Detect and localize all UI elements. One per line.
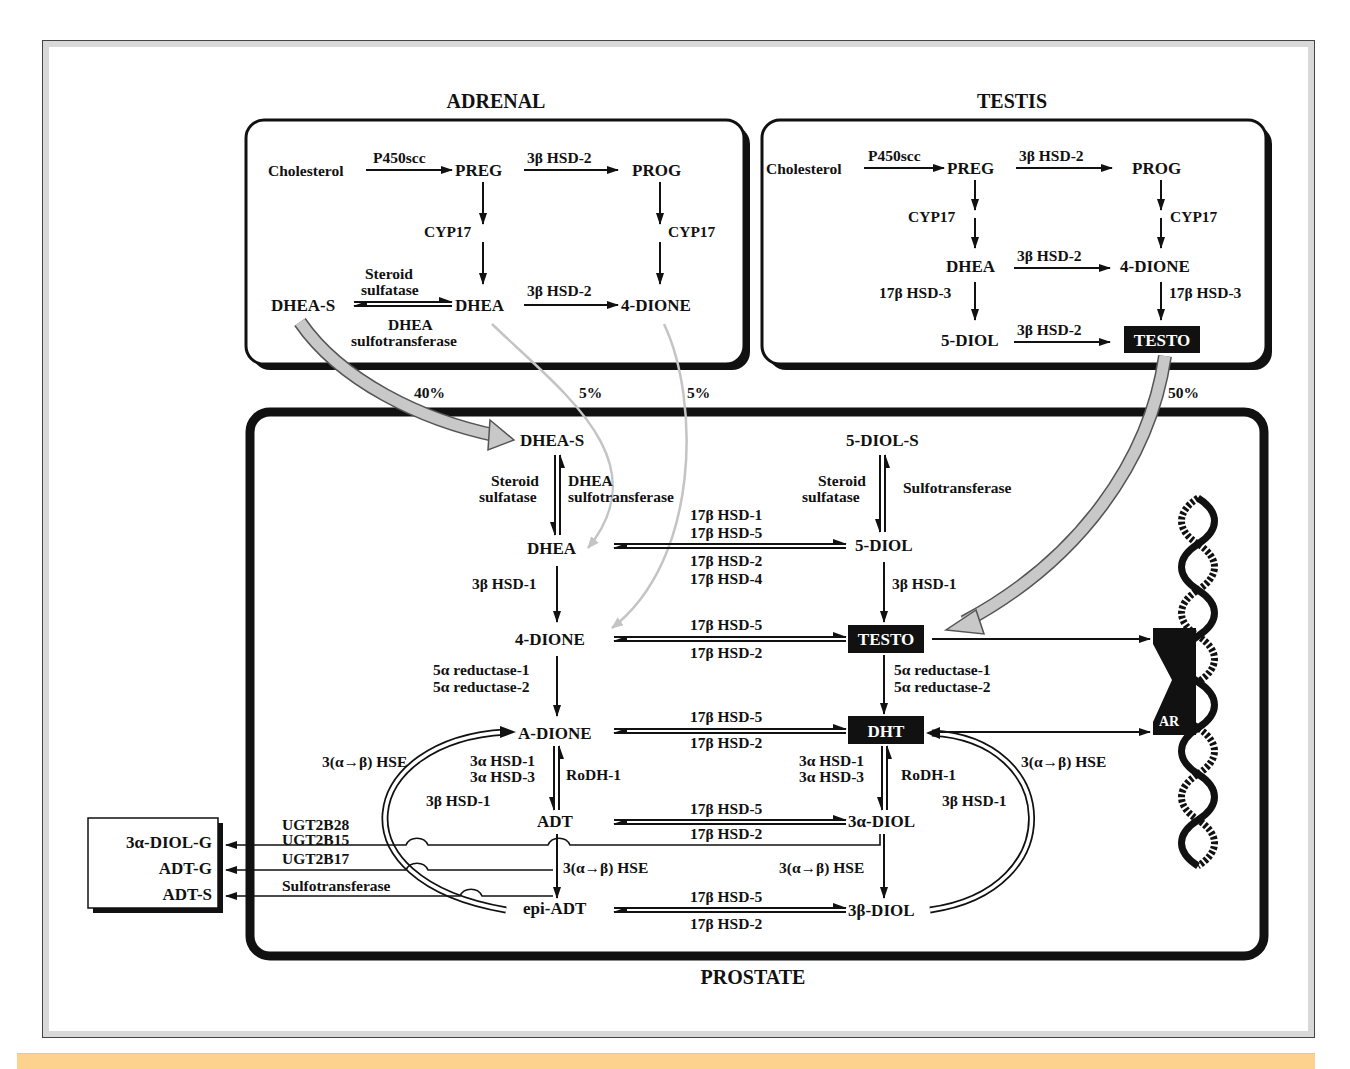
prostate-sulfatase-2: sulfatase (802, 488, 860, 505)
prostate-sulfotransferase: Sulfotransferase (903, 479, 1012, 496)
adrenal-cyp17-left: CYP17 (424, 223, 472, 240)
prostate-3bhsd1-right: 3β HSD-1 (892, 575, 957, 592)
adrenal-3bhsd2-top: 3β HSD-2 (527, 149, 592, 166)
adrenal-cholesterol: Cholesterol (268, 162, 344, 179)
testis-3bhsd2-bottom: 3β HSD-2 (1017, 321, 1082, 338)
prostate-steroid-1: Steroid (491, 472, 539, 489)
testis-4dione: 4-DIONE (1120, 257, 1190, 276)
prostate-dhea-sulfo-2: sulfotransferase (568, 488, 674, 505)
prostate-17bhsd5-fwd: 17β HSD-5 (690, 524, 763, 541)
prostate-3bhsd1-loop-left: 3β HSD-1 (426, 792, 491, 809)
adrenal-dhea: DHEA (455, 296, 505, 315)
adrenal-prog: PROG (632, 161, 681, 180)
prostate-epi-17bhsd2: 17β HSD-2 (690, 915, 763, 932)
prostate-3ahsd1-left: 3α HSD-1 (470, 752, 535, 769)
prostate-epi-17bhsd5: 17β HSD-5 (690, 888, 763, 905)
adrenal-4dione: 4-DIONE (621, 296, 691, 315)
excretion-adt-g: ADT-G (159, 859, 212, 878)
prostate-dhea-sulfo-1: DHEA (568, 472, 614, 489)
prostate-testo: TESTO (858, 630, 914, 649)
dione-contribution: 5% (687, 384, 710, 401)
prostate-dhea: DHEA (527, 539, 577, 558)
dheas-contribution: 40% (414, 384, 445, 401)
testis-prog: PROG (1132, 159, 1181, 178)
testis-cyp17-right: CYP17 (1170, 208, 1218, 225)
prostate-17bhsd1-fwd: 17β HSD-1 (690, 506, 762, 523)
prostate-sulfotransferase-out: Sulfotransferase (282, 877, 391, 894)
prostate-hse-mid-left: 3(α→β) HSE (563, 859, 648, 877)
prostate-5diol: 5-DIOL (855, 536, 913, 555)
testis-3bhsd2-top: 3β HSD-2 (1019, 147, 1084, 164)
adrenal-p450scc: P450scc (373, 149, 426, 166)
prostate-17bhsd2-rev: 17β HSD-2 (690, 552, 763, 569)
prostate-4dione: 4-DIONE (515, 630, 585, 649)
prostate-3ahsd1-right: 3α HSD-1 (799, 752, 864, 769)
testis-cyp17-left: CYP17 (908, 208, 956, 225)
testis-p450scc: P450scc (868, 147, 921, 164)
testis-5diol: 5-DIOL (941, 331, 999, 350)
prostate-3bhsd1-loop-right: 3β HSD-1 (942, 792, 1007, 809)
prostate-pathway: DHEA-S Steroid sulfatase DHEA sulfotrans… (226, 431, 1150, 932)
testis-testo: TESTO (1134, 331, 1190, 350)
adrenal-steroid: Steroid (365, 265, 413, 282)
adrenal-3bhsd2-bottom: 3β HSD-2 (527, 282, 592, 299)
adrenal-title: ADRENAL (447, 90, 546, 112)
prostate-5ared2-left: 5α reductase-2 (433, 678, 530, 695)
prostate-adt-17bhsd2: 17β HSD-2 (690, 825, 763, 842)
adrenal-box (246, 120, 750, 370)
prostate-hse-left: 3(α→β) HSE (322, 753, 407, 771)
prostate-hse-mid-right: 3(α→β) HSE (779, 859, 864, 877)
adrenal-dhea-label: DHEA (388, 316, 434, 333)
prostate-5ared1-right: 5α reductase-1 (894, 661, 991, 678)
prostate-dione-17bhsd5: 17β HSD-5 (690, 616, 763, 633)
prostate-title: PROSTATE (701, 966, 806, 988)
prostate-adt-17bhsd5: 17β HSD-5 (690, 800, 763, 817)
testis-17bhsd3-right: 17β HSD-3 (1169, 284, 1242, 301)
prostate-dheas: DHEA-S (520, 431, 584, 450)
prostate-ugt2b17: UGT2B17 (282, 850, 349, 867)
testis-preg: PREG (947, 159, 994, 178)
prostate-3bhsd1-left: 3β HSD-1 (472, 575, 537, 592)
testis-17bhsd3-left: 17β HSD-3 (879, 284, 952, 301)
adrenal-cyp17-right: CYP17 (668, 223, 716, 240)
prostate-adione: A-DIONE (518, 724, 592, 743)
prostate-5diols: 5-DIOL-S (846, 431, 919, 450)
prostate-dht: DHT (868, 722, 906, 741)
prostate-steroid-2: Steroid (818, 472, 866, 489)
prostate-ugt2b15: UGT2B15 (282, 831, 349, 848)
testis-dhea: DHEA (946, 257, 996, 276)
adrenal-sulfatase: sulfatase (361, 281, 419, 298)
adrenal-preg: PREG (455, 161, 502, 180)
prostate-3adiol: 3α-DIOL (848, 812, 915, 831)
prostate-adione-17bhsd2: 17β HSD-2 (690, 734, 763, 751)
adrenal-dheas: DHEA-S (271, 296, 335, 315)
excretion-3adiol-g: 3α-DIOL-G (126, 833, 212, 852)
prostate-3bdiol: 3β-DIOL (848, 901, 915, 920)
prostate-rodh1-right: RoDH-1 (901, 766, 956, 783)
prostate-5ared1-left: 5α reductase-1 (433, 661, 530, 678)
prostate-3ahsd3-right: 3α HSD-3 (799, 768, 864, 785)
prostate-3ahsd3-left: 3α HSD-3 (470, 768, 535, 785)
prostate-dione-17bhsd2: 17β HSD-2 (690, 644, 763, 661)
prostate-rodh1-left: RoDH-1 (566, 766, 621, 783)
dhea-contribution: 5% (579, 384, 602, 401)
testo-contribution: 50% (1168, 384, 1199, 401)
prostate-epiadt: epi-ADT (523, 899, 587, 918)
prostate-hse-right: 3(α→β) HSE (1021, 753, 1106, 771)
prostate-5ared2-right: 5α reductase-2 (894, 678, 991, 695)
testis-3bhsd2-mid: 3β HSD-2 (1017, 247, 1082, 264)
adrenal-sulfotransferase: sulfotransferase (351, 332, 457, 349)
prostate-17bhsd4-rev: 17β HSD-4 (690, 570, 763, 587)
ar-label: AR (1159, 714, 1180, 729)
prostate-adt: ADT (537, 812, 574, 831)
prostate-sulfatase-1: sulfatase (479, 488, 537, 505)
prostate-adione-17bhsd5: 17β HSD-5 (690, 708, 763, 725)
excretion-adt-s: ADT-S (163, 885, 212, 904)
testis-title: TESTIS (977, 90, 1047, 112)
testis-cholesterol: Cholesterol (766, 160, 842, 177)
